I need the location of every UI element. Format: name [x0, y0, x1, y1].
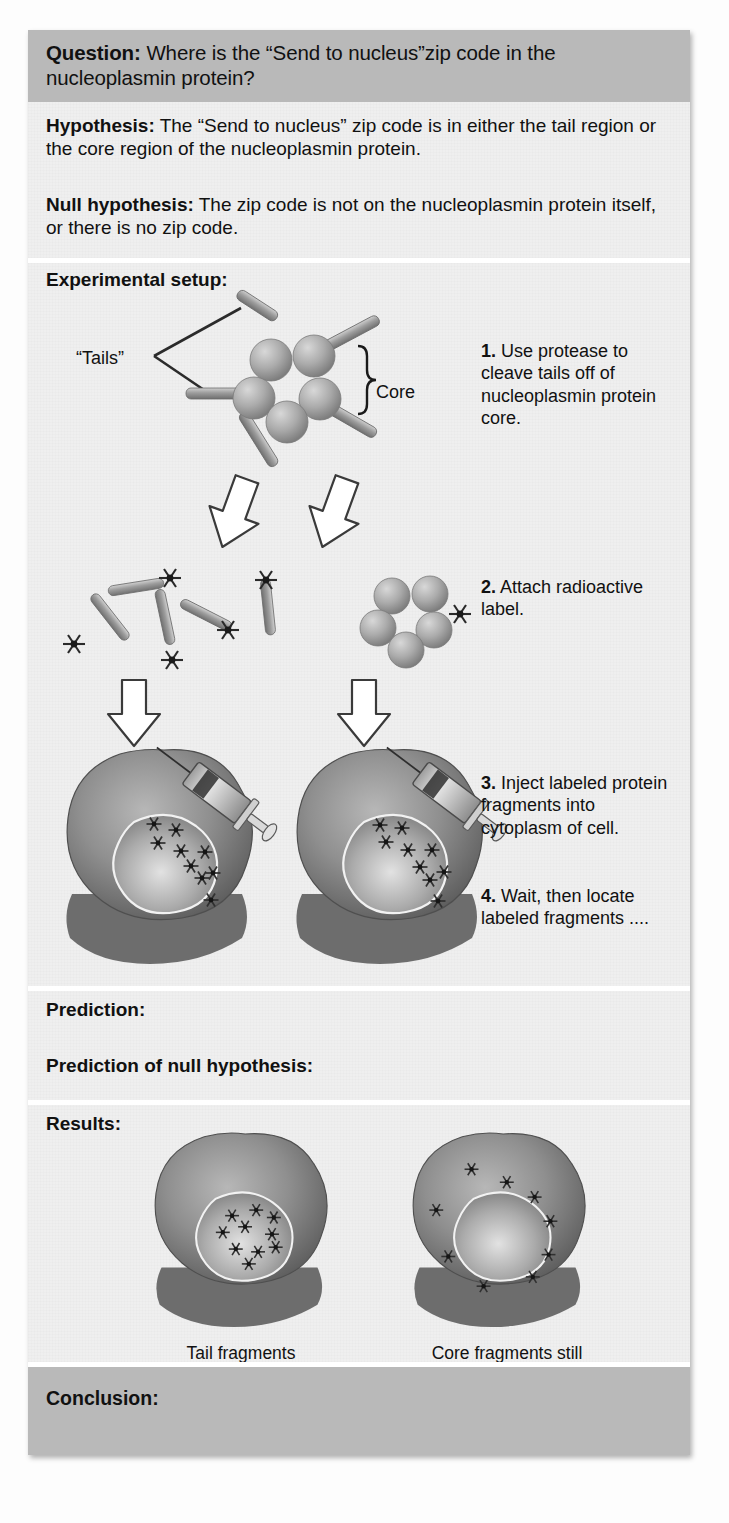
conclusion-band: Conclusion:	[28, 1367, 690, 1455]
core-label: Core	[376, 382, 415, 403]
core-brace	[358, 346, 376, 414]
step-2-number: 2.	[481, 577, 496, 597]
divider-setup	[28, 258, 690, 263]
hypothesis-label: Hypothesis:	[46, 115, 155, 136]
prediction-label: Prediction:	[46, 998, 145, 1021]
setup-label: Experimental setup:	[46, 268, 228, 291]
injection-cell-right	[280, 710, 510, 980]
tails-leader-upper	[154, 308, 241, 356]
step-4-text: 4. Wait, then locate labeled fragments .…	[481, 885, 669, 930]
step-1-body: Use protease to cleave tails off of nucl…	[481, 341, 656, 428]
results-label: Results:	[46, 1112, 121, 1135]
step-2-text: 2. Attach radioactive label.	[481, 576, 663, 621]
step-3-body: Inject labeled protein fragments into cy…	[481, 773, 667, 838]
step-1-number: 1.	[481, 341, 496, 361]
core-spheres-labeled	[360, 576, 452, 668]
divider-prediction	[28, 986, 690, 991]
down-arrow-left-icon	[198, 470, 271, 555]
cell-nucleus-right	[343, 815, 447, 913]
step-3-number: 3.	[481, 773, 496, 793]
hypothesis-text: Hypothesis: The “Send to nucleus” zip co…	[46, 114, 670, 160]
cell-nucleus-left	[113, 815, 217, 913]
arrow-pair-one	[194, 475, 384, 555]
question-label: Question:	[46, 41, 141, 64]
step-3-text: 3. Inject labeled protein fragments into…	[481, 772, 669, 839]
tails-label: “Tails”	[76, 348, 124, 369]
result-cell-nucleus-left	[196, 1192, 292, 1280]
injection-cell-left	[50, 710, 280, 980]
labeled-tail-fragments-figure	[50, 560, 320, 680]
prediction-null-label: Prediction of null hypothesis:	[46, 1055, 313, 1076]
question-text: Question: Where is the “Send to nucleus”…	[46, 40, 668, 90]
labeled-core-figure	[350, 570, 490, 680]
divider-results	[28, 1100, 690, 1105]
step-2-body: Attach radioactive label.	[481, 577, 643, 619]
figure-page: Question: Where is the “Send to nucleus”…	[0, 0, 729, 1523]
step-4-number: 4.	[481, 886, 496, 906]
conclusion-label: Conclusion:	[46, 1387, 159, 1411]
null-hypothesis-label: Null hypothesis:	[46, 194, 194, 215]
result-cell-nucleus-right	[454, 1192, 550, 1280]
prediction-null-text: Prediction of null hypothesis:	[46, 1054, 313, 1077]
null-hypothesis-text: Null hypothesis: The zip code is not on …	[46, 193, 670, 239]
step-1-text: 1. Use protease to cleave tails off of n…	[481, 340, 663, 429]
tail-fragment-rods	[89, 578, 276, 646]
step-4-body: Wait, then locate labeled fragments ....	[481, 886, 649, 928]
result-cell-left	[138, 1108, 354, 1340]
result-cell-right	[396, 1108, 612, 1340]
figure-panel: Question: Where is the “Send to nucleus”…	[28, 30, 690, 1455]
core-radioactive-star-icon	[449, 605, 471, 623]
down-arrow-right-icon	[298, 470, 371, 555]
